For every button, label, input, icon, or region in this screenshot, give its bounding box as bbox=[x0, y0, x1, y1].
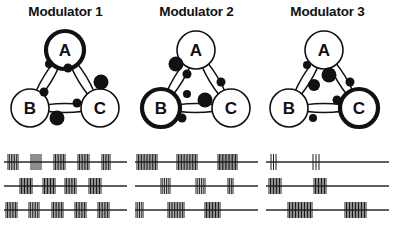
spike-train-panel bbox=[131, 150, 262, 228]
spike-burst bbox=[269, 178, 281, 194]
synapse-marker bbox=[50, 111, 65, 126]
network-node-label: C bbox=[353, 99, 365, 118]
spike-burst bbox=[43, 178, 55, 194]
spike-burst bbox=[314, 178, 326, 194]
spike-burst bbox=[20, 178, 32, 194]
network-node-label: B bbox=[24, 99, 36, 118]
synapse-marker bbox=[346, 78, 355, 87]
synapse-marker bbox=[45, 60, 53, 68]
synapse-marker bbox=[333, 96, 342, 105]
network-diagram: ABC bbox=[262, 20, 393, 142]
network-node-label: B bbox=[283, 99, 295, 118]
synapse-marker bbox=[303, 61, 311, 69]
modulator-panel: Modulator 1ABC bbox=[0, 0, 131, 230]
synapse-marker bbox=[183, 90, 191, 98]
synapse-marker bbox=[217, 78, 226, 87]
synapse-marker bbox=[73, 99, 82, 108]
network-diagram: ABC bbox=[131, 20, 262, 142]
panel-title: Modulator 2 bbox=[131, 4, 262, 19]
network-node-label: A bbox=[190, 41, 202, 60]
network-diagram: ABC bbox=[0, 20, 131, 142]
synapse-marker bbox=[309, 114, 317, 122]
network-node-label: A bbox=[59, 41, 71, 60]
spike-train-panel bbox=[0, 150, 131, 228]
panel-title: Modulator 1 bbox=[0, 4, 131, 19]
synapse-marker bbox=[94, 75, 109, 90]
synapse-marker bbox=[308, 79, 320, 91]
network-node-label: C bbox=[94, 99, 106, 118]
synapse-marker bbox=[40, 88, 49, 97]
synapse-marker bbox=[178, 114, 187, 123]
spike-burst bbox=[89, 178, 101, 194]
synapse-marker bbox=[198, 93, 213, 108]
spike-burst bbox=[345, 202, 366, 218]
network-node-label: B bbox=[155, 99, 167, 118]
spike-burst bbox=[29, 202, 39, 218]
synapse-marker bbox=[64, 64, 73, 73]
spike-train-panel bbox=[262, 150, 393, 228]
modulator-panel: Modulator 2ABC bbox=[131, 0, 262, 230]
synapse-marker bbox=[169, 57, 184, 72]
spike-burst bbox=[8, 154, 18, 170]
modulator-panel: Modulator 3ABC bbox=[262, 0, 393, 230]
modulator-network-figure: Modulator 1ABCModulator 2ABCModulator 3A… bbox=[0, 0, 393, 230]
network-node-label: A bbox=[318, 41, 330, 60]
synapse-marker bbox=[322, 68, 337, 83]
network-node-label: C bbox=[225, 99, 237, 118]
synapse-marker bbox=[183, 70, 192, 79]
panel-title: Modulator 3 bbox=[262, 4, 393, 19]
